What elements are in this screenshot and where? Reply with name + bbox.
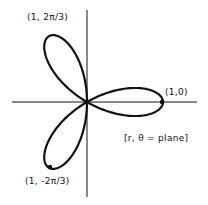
- point-right-dot: [160, 100, 164, 104]
- label-point-upper-left: (1, 2π/3): [27, 13, 68, 22]
- label-point-lower-left: (1, -2π/3): [25, 177, 70, 186]
- coordinate-system-annotation: [r, θ = plane]: [124, 134, 188, 143]
- point-lower-left-dot: [48, 165, 52, 169]
- label-point-right: (1,0): [165, 88, 188, 97]
- polar-rose-diagram: [0, 0, 208, 205]
